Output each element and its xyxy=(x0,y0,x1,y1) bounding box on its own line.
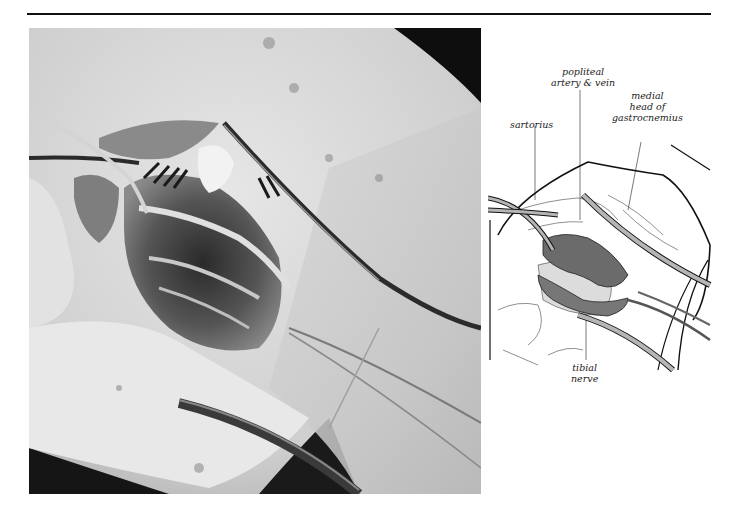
top-rule xyxy=(27,13,711,15)
photo-rendering xyxy=(29,28,481,494)
label-sartorius: sartorius xyxy=(510,119,553,130)
illustration-drawing xyxy=(488,60,733,420)
label-medial-head-gastrocnemius: medial head of gastrocnemius xyxy=(612,90,683,123)
label-popliteal-artery-vein: popliteal artery & vein xyxy=(551,66,615,88)
anatomical-illustration: sartorius popliteal artery & vein medial… xyxy=(488,60,733,420)
label-tibial-nerve: tibial nerve xyxy=(571,362,598,384)
surgical-photograph xyxy=(29,28,481,494)
